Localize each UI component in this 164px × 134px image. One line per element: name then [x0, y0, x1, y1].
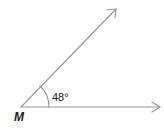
angle-diagram: 48° M — [0, 0, 164, 134]
angle-arc — [40, 86, 49, 107]
vertex-label: M — [14, 110, 25, 124]
angle-label: 48° — [52, 91, 69, 103]
